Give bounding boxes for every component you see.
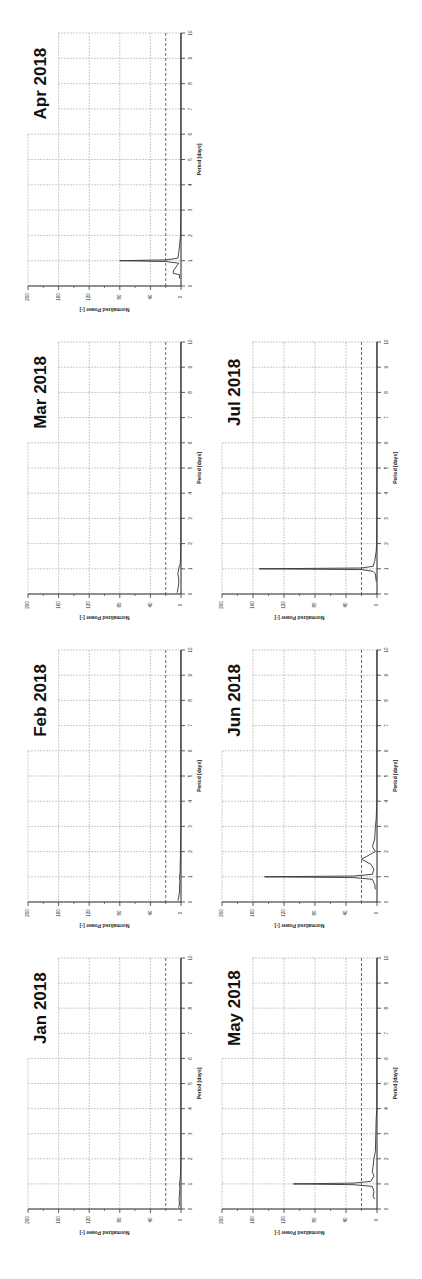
power-tick-label: 200	[25, 1216, 30, 1224]
power-spectrum-line	[293, 958, 377, 1199]
period-tick-label: 4	[188, 799, 193, 802]
panel-title: Feb 2018	[31, 664, 50, 737]
period-tick-label: 10	[188, 30, 193, 36]
period-tick-label: 8	[384, 391, 389, 394]
period-tick-label: 8	[384, 699, 389, 702]
power-tick-label: 40	[343, 602, 348, 608]
period-tick-label: 5	[384, 466, 389, 469]
period-tick-label: 8	[188, 1006, 193, 1009]
period-tick-label: 5	[188, 466, 193, 469]
period-tick-label: 10	[384, 955, 389, 961]
period-tick-label: 2	[188, 234, 193, 237]
period-tick-label: 1	[384, 1182, 389, 1185]
power-tick-label: 200	[219, 909, 224, 917]
period-tick-label: 5	[188, 774, 193, 777]
power-tick-label: 40	[343, 910, 348, 916]
power-tick-label: 120	[86, 1216, 91, 1224]
period-tick-label: 7	[384, 1032, 389, 1035]
period-tick-label: 7	[384, 416, 389, 419]
power-tick-label: 40	[148, 294, 153, 300]
period-tick-label: 5	[384, 1082, 389, 1085]
period-tick-label: 6	[384, 441, 389, 444]
power-tick-label: 200	[25, 293, 30, 301]
period-tick-label: 0	[188, 900, 193, 903]
period-tick-label: 3	[188, 208, 193, 211]
period-axis-label: Period [days]	[392, 1067, 398, 1099]
period-tick-label: 1	[188, 1182, 193, 1185]
period-tick-label: 7	[384, 724, 389, 727]
period-tick-label: 0	[188, 284, 193, 287]
period-tick-label: 10	[384, 339, 389, 345]
power-tick-label: 80	[312, 1217, 317, 1223]
power-tick-label: 40	[148, 1217, 153, 1223]
period-tick-label: 2	[384, 850, 389, 853]
power-tick-label: 40	[343, 1217, 348, 1223]
power-spectrum-line	[178, 650, 181, 901]
period-tick-label: 3	[384, 517, 389, 520]
panel-title: Apr 2018	[31, 48, 50, 120]
power-tick-label: 120	[86, 293, 91, 301]
period-tick-label: 1	[384, 567, 389, 570]
periodogram-panel: 01234567891004080120160200Normalized Pow…	[25, 647, 202, 929]
period-tick-label: 0	[384, 1207, 389, 1210]
periodogram-panel: 01234567891004080120160200Normalized Pow…	[25, 955, 202, 1236]
power-axis-label: Normalized Power [-]	[79, 1230, 129, 1236]
period-tick-label: 3	[188, 825, 193, 828]
power-tick-label: 160	[56, 601, 61, 609]
period-tick-label: 3	[384, 1132, 389, 1135]
power-tick-label: 0	[374, 1218, 379, 1221]
period-tick-label: 10	[188, 647, 193, 653]
periodogram-panel: 01234567891004080120160200Normalized Pow…	[219, 339, 398, 621]
period-tick-label: 0	[384, 592, 389, 595]
period-tick-label: 3	[188, 1132, 193, 1135]
period-tick-label: 2	[188, 850, 193, 853]
period-tick-label: 7	[188, 416, 193, 419]
period-tick-label: 4	[188, 183, 193, 186]
power-tick-label: 160	[56, 1216, 61, 1224]
power-axis-label: Normalized Power [-]	[79, 615, 129, 621]
period-tick-label: 6	[188, 441, 193, 444]
period-tick-label: 10	[188, 955, 193, 961]
period-tick-label: 4	[384, 1107, 389, 1110]
panel-title: Jun 2018	[225, 664, 244, 737]
period-tick-label: 4	[384, 491, 389, 494]
power-tick-label: 200	[25, 909, 30, 917]
power-axis-label: Normalized Power [-]	[79, 307, 129, 313]
power-tick-label: 160	[250, 601, 255, 609]
power-tick-label: 160	[250, 1216, 255, 1224]
power-tick-label: 160	[56, 293, 61, 301]
period-tick-label: 6	[384, 749, 389, 752]
power-tick-label: 200	[219, 1216, 224, 1224]
period-tick-label: 6	[188, 132, 193, 135]
power-tick-label: 160	[250, 909, 255, 917]
power-tick-label: 80	[312, 910, 317, 916]
power-spectrum-line	[179, 958, 181, 1208]
period-axis-label: Period [days]	[196, 760, 202, 792]
periodogram-panel: 01234567891004080120160200Normalized Pow…	[219, 647, 398, 929]
periodogram-panel: 01234567891004080120160200Normalized Pow…	[25, 30, 202, 313]
period-tick-label: 5	[188, 158, 193, 161]
periodogram-panel: 01234567891004080120160200Normalized Pow…	[25, 339, 202, 621]
power-axis-label: Normalized Power [-]	[274, 1230, 324, 1236]
period-tick-label: 7	[188, 1032, 193, 1035]
power-axis-label: Normalized Power [-]	[274, 923, 324, 929]
period-tick-label: 9	[188, 673, 193, 676]
period-axis-label: Period [days]	[196, 1067, 202, 1099]
period-tick-label: 1	[188, 259, 193, 262]
period-tick-label: 7	[188, 107, 193, 110]
period-tick-label: 8	[384, 1006, 389, 1009]
period-tick-label: 9	[188, 57, 193, 60]
panel-title: Jul 2018	[225, 359, 244, 426]
period-tick-label: 6	[384, 1057, 389, 1060]
period-tick-label: 1	[384, 875, 389, 878]
power-tick-label: 80	[117, 294, 122, 300]
period-tick-label: 5	[384, 774, 389, 777]
period-tick-label: 0	[188, 1207, 193, 1210]
power-spectrum-line	[265, 650, 377, 889]
period-tick-label: 10	[384, 647, 389, 653]
power-tick-label: 80	[117, 910, 122, 916]
period-tick-label: 8	[188, 391, 193, 394]
period-tick-label: 0	[188, 592, 193, 595]
period-tick-label: 9	[384, 673, 389, 676]
period-tick-label: 8	[188, 82, 193, 85]
